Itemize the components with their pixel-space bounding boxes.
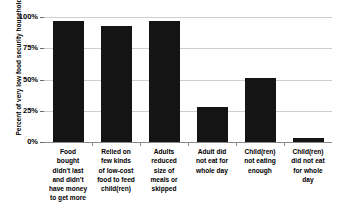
- x-axis-label-line: enough: [236, 166, 284, 175]
- bar: [245, 78, 276, 142]
- x-axis-label-line: Food: [44, 147, 92, 156]
- x-tick-mark: [92, 142, 93, 146]
- bar: [101, 26, 132, 142]
- x-tick-mark: [140, 142, 141, 146]
- x-axis-label-line: Child(ren): [236, 147, 284, 156]
- x-axis-label-line: child(ren): [92, 184, 140, 193]
- x-axis-label-line: reduced: [140, 156, 188, 165]
- x-tick-mark: [236, 142, 237, 146]
- bar: [53, 21, 84, 142]
- bar: [197, 107, 228, 142]
- x-axis-label-line: Adults: [140, 147, 188, 156]
- x-axis-label-line: size of: [140, 166, 188, 175]
- y-tick-label-0%: 0%: [27, 138, 38, 146]
- x-axis-label-line: not eating: [236, 156, 284, 165]
- x-axis-label-line: to get more: [44, 193, 92, 202]
- x-axis-label-line: bought: [44, 156, 92, 165]
- bar-chart: Percent of very low food security househ…: [0, 0, 346, 223]
- x-tick-mark: [188, 142, 189, 146]
- bar: [293, 138, 324, 142]
- x-axis-label-line: didn't last: [44, 166, 92, 175]
- x-axis-label-line: not eat for: [188, 156, 236, 165]
- x-axis-label-line: meals or: [140, 175, 188, 184]
- x-axis-label: Child(ren)not eatingenough: [236, 147, 284, 175]
- x-axis-label-line: Relied on: [92, 147, 140, 156]
- x-axis-label-line: skipped: [140, 184, 188, 193]
- x-axis-label-line: few kinds: [92, 156, 140, 165]
- x-axis-label: Relied onfew kindsof low-costfood to fee…: [92, 147, 140, 193]
- y-tick-label-75%: 75%: [23, 45, 38, 53]
- x-axis-label: Adultsreducedsize ofmeals orskipped: [140, 147, 188, 193]
- x-axis-label-line: whole day: [188, 166, 236, 175]
- x-axis-label-line: food to feed: [92, 175, 140, 184]
- x-axis-label: Foodboughtdidn't lastand didn'thave mone…: [44, 147, 92, 203]
- x-axis-label-line: day: [284, 175, 332, 184]
- x-axis-label-line: have money: [44, 184, 92, 193]
- y-tick-mark: [40, 142, 44, 143]
- x-axis-label-line: did not eat: [284, 156, 332, 165]
- y-tick-label-25%: 25%: [23, 107, 38, 115]
- x-axis-label-line: of low-cost: [92, 166, 140, 175]
- x-axis-label-line: Child(ren): [284, 147, 332, 156]
- bar: [149, 21, 180, 142]
- x-axis-label-line: for whole: [284, 166, 332, 175]
- x-tick-mark: [284, 142, 285, 146]
- plot-area: 0%25%50%75%100%: [44, 17, 332, 142]
- y-tick-label-50%: 50%: [23, 76, 38, 84]
- y-tick-label-100%: 100%: [19, 13, 38, 21]
- x-axis-label-line: Adult did: [188, 147, 236, 156]
- bars-layer: [44, 17, 332, 142]
- x-axis-label: Child(ren)did not eatfor wholeday: [284, 147, 332, 184]
- x-axis-label: Adult didnot eat forwhole day: [188, 147, 236, 175]
- x-axis-label-line: and didn't: [44, 175, 92, 184]
- x-axis-labels: Foodboughtdidn't lastand didn'thave mone…: [44, 147, 332, 219]
